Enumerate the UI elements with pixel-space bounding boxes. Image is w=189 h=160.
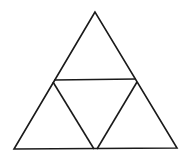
middle-horizontal-line [54,79,136,80]
outer-triangle [14,12,177,149]
right-inner-diagonal [97,82,137,149]
left-inner-diagonal [53,82,94,149]
subdivided-triangle-diagram [0,0,189,160]
